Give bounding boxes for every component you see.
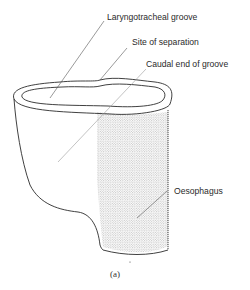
figure-caption: (a): [110, 269, 120, 279]
label-oesophagus: Oesophagus: [174, 186, 223, 196]
body-outline-left: [14, 99, 103, 250]
rim-outer: [13, 78, 171, 114]
oesophagus-region: [97, 112, 168, 252]
label-laryngotracheal-groove: Laryngotracheal groove: [107, 12, 198, 22]
label-caudal-end-of-groove: Caudal end of groove: [146, 59, 228, 69]
rim-inner: [22, 84, 165, 107]
anatomy-diagram: Laryngotracheal groove Site of separatio…: [0, 0, 250, 290]
stray-dot: [129, 261, 130, 262]
leader-site-of-separation: [100, 48, 127, 80]
label-site-of-separation: Site of separation: [132, 37, 199, 47]
